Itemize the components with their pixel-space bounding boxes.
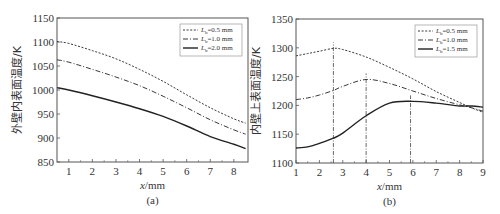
chart-panel-b: 123456789110011501200125013001350 Lb=0.5… xyxy=(249,13,486,208)
x-tick-label: 4 xyxy=(363,166,369,178)
x-tick-label: 5 xyxy=(387,166,393,178)
x-axis-label-a: x/mm xyxy=(139,179,166,191)
panel-label-a: (a) xyxy=(146,194,159,207)
x-axis-label-b: x/mm xyxy=(376,180,403,192)
series-line xyxy=(57,60,246,134)
series-lines-a xyxy=(57,42,246,149)
y-tick-label: 1100 xyxy=(32,36,54,48)
series-lines-b xyxy=(296,48,483,148)
panel-label-b: (b) xyxy=(383,195,396,208)
x-tick-label: 6 xyxy=(184,165,190,177)
peak-markers-b xyxy=(333,42,410,163)
y-axis-label-a: 外壁内表面温度/K xyxy=(10,45,24,134)
x-tick-label: 3 xyxy=(340,166,346,178)
x-tick-label: 8 xyxy=(231,165,237,177)
y-tick-label: 900 xyxy=(38,132,55,144)
x-tick-label: 7 xyxy=(434,166,440,178)
x-tick-label: 4 xyxy=(137,165,143,177)
x-tick-label: 2 xyxy=(90,165,96,177)
y-axis-label-b: 内壁上表面温度/K xyxy=(249,46,263,135)
x-tick-label: 7 xyxy=(208,165,214,177)
y-tick-label: 1150 xyxy=(271,128,293,140)
y-tick-label: 1050 xyxy=(32,60,55,72)
figure: 123456788509009501000105011001150 Lb=0.5… xyxy=(0,0,500,214)
legend-a: Lb=0.5 mmLb=1.0 mmLb=2.0 mm xyxy=(180,24,242,56)
x-tick-label: 1 xyxy=(293,166,299,178)
x-tick-label: 2 xyxy=(317,166,323,178)
y-tick-label: 1100 xyxy=(271,157,293,169)
x-tick-label: 3 xyxy=(113,165,119,177)
y-tick-label: 1000 xyxy=(32,84,55,96)
chart-panel-a: 123456788509009501000105011001150 Lb=0.5… xyxy=(10,12,248,207)
y-tick-label: 1150 xyxy=(32,12,54,24)
y-tick-label: 1200 xyxy=(271,99,294,111)
x-tick-label: 8 xyxy=(457,166,463,178)
series-line xyxy=(57,88,246,149)
y-tick-label: 1350 xyxy=(271,13,294,25)
x-tick-label: 9 xyxy=(480,166,486,178)
legend-b: Lb=0.5 mmLb=1.0 mmLb=1.5 mm xyxy=(415,25,477,57)
series-line xyxy=(296,101,483,148)
y-tick-label: 1300 xyxy=(271,42,294,54)
y-tick-label: 950 xyxy=(38,108,55,120)
x-tick-label: 5 xyxy=(160,165,166,177)
y-tick-label: 1250 xyxy=(271,71,294,83)
x-tick-label: 1 xyxy=(66,165,72,177)
y-tick-label: 850 xyxy=(38,156,55,168)
x-tick-label: 6 xyxy=(410,166,416,178)
series-line xyxy=(296,79,483,111)
